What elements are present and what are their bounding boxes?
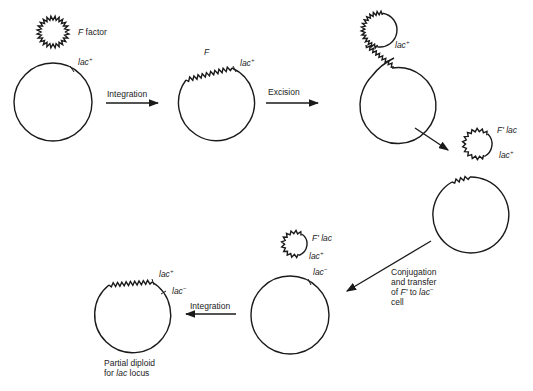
chromosome-deleted-icon xyxy=(433,177,509,253)
lac-plus-label: lac+ xyxy=(159,269,173,279)
lac-plus-label: lac+ xyxy=(309,251,323,261)
lac-plus-label: lac+ xyxy=(395,40,409,50)
excision-label: Excision xyxy=(268,87,300,97)
lac-minus-label: lac− xyxy=(313,267,327,277)
integration-label: Integration xyxy=(107,89,147,99)
partial-diploid-icon xyxy=(95,282,171,353)
f-factor-plasmid-icon xyxy=(37,16,69,48)
f-factor-label: F factor xyxy=(78,27,107,37)
partial-diploid-label: Partial diploid for lac locus xyxy=(104,358,155,378)
conjugation-label: Conjugation and transfer of F' to lac− c… xyxy=(391,267,436,307)
lac-plus-label: lac+ xyxy=(499,150,513,160)
lac-plus-label: lac+ xyxy=(240,58,254,68)
integration-label: Integration xyxy=(190,301,230,311)
lac-plus-label: lac+ xyxy=(78,57,92,67)
looped-chromosome-icon xyxy=(360,58,436,144)
diagram-canvas: F factor lac+ Integration F lac+ Excisio… xyxy=(0,0,533,391)
f-prime-lac-label: F' lac xyxy=(312,233,332,243)
f-prime-lac-label: F' lac xyxy=(497,125,517,135)
f-integrated-label: F xyxy=(204,47,209,57)
chromosome-lac-plus-icon xyxy=(14,63,92,141)
lac-minus-label: lac− xyxy=(172,286,186,296)
chromosome-lac-minus-icon xyxy=(251,276,329,354)
formation-arrow xyxy=(415,128,448,150)
